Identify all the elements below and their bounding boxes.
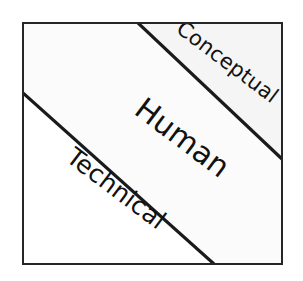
diagram-root: Conceptual Human Technical	[0, 0, 303, 281]
skills-square-frame: Conceptual Human Technical	[22, 22, 283, 265]
